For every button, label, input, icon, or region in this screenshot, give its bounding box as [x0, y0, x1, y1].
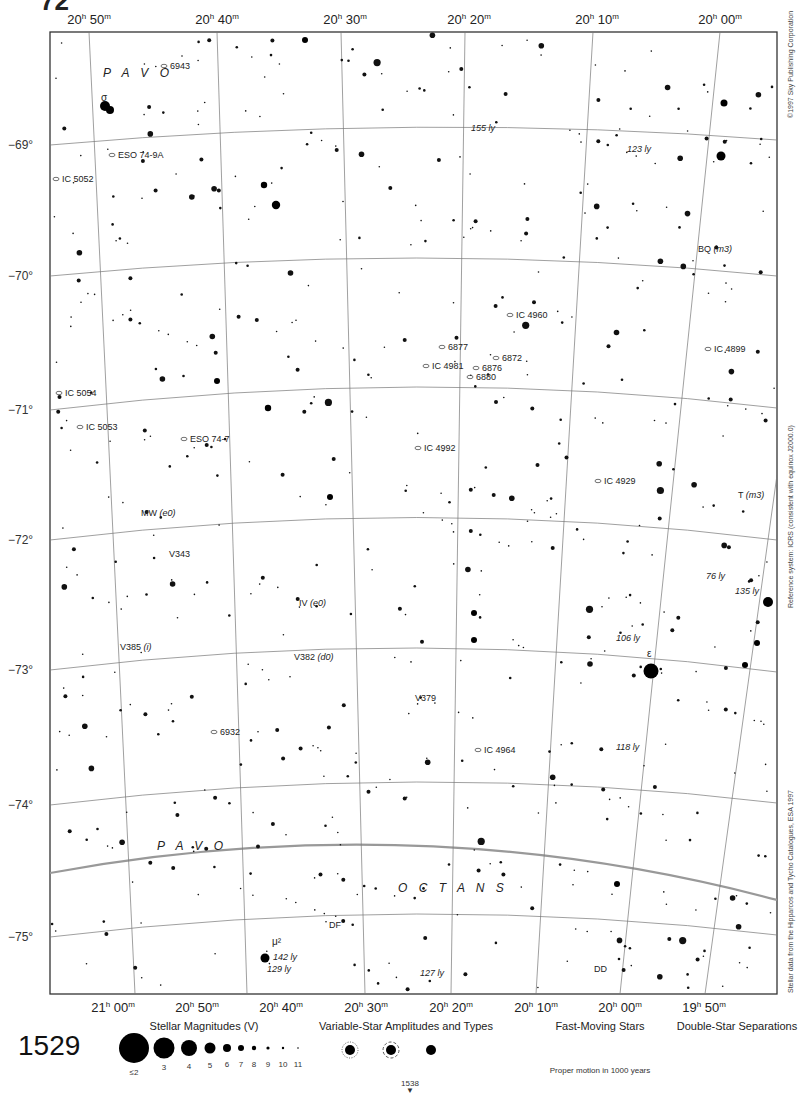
distance-label: 129 ly [267, 964, 292, 974]
distance-label: 142 ly [273, 952, 298, 962]
deep-sky-label: IC 4929 [604, 476, 636, 486]
distance-label: 127 ly [420, 968, 445, 978]
variable-star-label: V343 [169, 549, 190, 559]
magnitude-label: 6 [225, 1060, 229, 1069]
deep-sky-label: 6932 [220, 727, 240, 737]
distance-label: 135 ly [735, 586, 760, 596]
variable-star-label: V385 (i) [120, 642, 152, 652]
magnitude-label: 9 [266, 1060, 270, 1069]
deep-sky-label: IC 5053 [86, 422, 118, 432]
next-chart-link[interactable]: 1538 ▼ [401, 1079, 419, 1094]
magnitude-dot [205, 1043, 216, 1054]
distance-label: 118 ly [616, 742, 640, 752]
star-designation: μ² [272, 936, 282, 947]
star-designation: ε [647, 648, 652, 659]
deep-sky-label: ESO 74-7 [190, 434, 230, 444]
constellation-label: P A V O [157, 839, 227, 853]
variable-star-label: T (m3) [738, 490, 764, 500]
deep-sky-label: IC 5054 [65, 388, 97, 398]
down-arrow-icon: ▼ [401, 1088, 419, 1094]
magnitude-dot [238, 1045, 244, 1051]
magnitude-dot [223, 1044, 231, 1052]
magnitude-label: 10 [279, 1060, 288, 1069]
magnitude-label: 11 [294, 1060, 302, 1069]
deep-sky-label: ESO 74-9A [118, 150, 164, 160]
magnitude-label: 4 [187, 1062, 191, 1071]
distance-label: 76 ly [706, 571, 726, 581]
distance-label: 155 ly [471, 123, 496, 133]
magnitude-dot [119, 1033, 149, 1063]
constellation-label: O C T A N S [398, 881, 508, 895]
deep-sky-label: IC 4964 [484, 745, 516, 755]
deep-sky-label: IC 5052 [62, 174, 94, 184]
magnitude-dot [282, 1047, 284, 1049]
variable-star-label: V379 [415, 693, 436, 703]
magnitude-label: 8 [252, 1060, 256, 1069]
variable-star-label: IV (e0) [299, 598, 326, 608]
magnitude-dot [154, 1038, 175, 1059]
star-chart: P A V OP A V OO C T A N S6943ESO 74-9AIC… [0, 0, 811, 1095]
magnitude-dot [252, 1046, 256, 1050]
magnitude-dot [181, 1040, 197, 1056]
magnitude-dot [297, 1047, 299, 1049]
magnitude-label: 5 [208, 1061, 212, 1070]
deep-sky-label: 6880 [476, 372, 496, 382]
magnitude-label: 7 [239, 1060, 243, 1069]
deep-sky-label: 6877 [448, 342, 468, 352]
magnitude-label: ≤2 [130, 1068, 139, 1077]
reference-system-credit: Reference system: ICRS (consistent with … [787, 425, 794, 608]
deep-sky-label: IC 4992 [424, 443, 456, 453]
magnitude-label: 3 [162, 1063, 166, 1072]
magnitude-dot [266, 1046, 269, 1049]
proper-motion-caption: Proper motion in 1000 years [550, 1066, 651, 1075]
distance-label: 123 ly [627, 144, 652, 154]
variable-star-label: V382 (d0) [294, 652, 334, 662]
variable-star-label: DD [594, 964, 607, 974]
variable-star-label: DF [329, 920, 341, 930]
data-source-credit: Stellar data from the Hipparcos and Tych… [787, 790, 794, 993]
constellation-label: P A V O [103, 66, 173, 80]
star-designation: σ [101, 92, 108, 103]
distance-label: 106 ly [616, 633, 641, 643]
deep-sky-label: 6872 [502, 353, 522, 363]
deep-sky-label: 6943 [170, 61, 190, 71]
variable-star-label: MW (e0) [141, 508, 176, 518]
deep-sky-label: IC 4960 [516, 310, 548, 320]
deep-sky-label: IC 4981 [432, 361, 464, 371]
variable-star-label: BQ (m3) [698, 244, 732, 254]
deep-sky-label: IC 4899 [714, 344, 746, 354]
copyright-credit: ©1997 Sky Publishing Corporation [787, 11, 794, 118]
